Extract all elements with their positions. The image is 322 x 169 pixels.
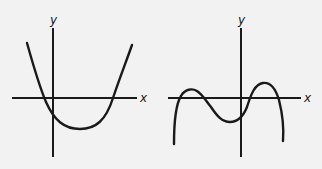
right-quartic-curve (174, 83, 283, 144)
right-graph: y x (168, 13, 312, 157)
left-graph: y x (12, 13, 148, 157)
right-y-label: y (237, 13, 246, 27)
left-y-label: y (49, 13, 58, 27)
right-x-label: x (303, 91, 312, 105)
left-x-label: x (139, 91, 148, 105)
left-parabola-curve (27, 43, 132, 129)
graphs-figure: y x y x (0, 0, 322, 169)
